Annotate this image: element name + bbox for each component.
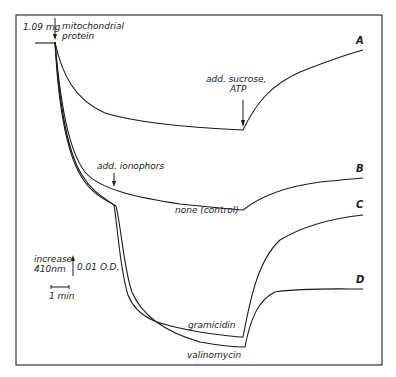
time-scale-label: 1 min bbox=[49, 291, 75, 301]
curve-label-d: D bbox=[356, 274, 364, 285]
curve-d bbox=[55, 42, 363, 347]
valinomycin-label: valinomycin bbox=[187, 350, 242, 360]
scale-wavelength-label: 410nm bbox=[34, 264, 66, 274]
curve-a bbox=[55, 42, 363, 130]
chart-figure: 1.09 mg mitochondrial protein A add. suc… bbox=[0, 0, 396, 377]
curve-c bbox=[55, 42, 363, 337]
start-label-line1: mitochondrial bbox=[62, 21, 125, 31]
sucrose-label-line1: add. sucrose, bbox=[206, 74, 266, 84]
ionophors-arrow-head-icon bbox=[112, 181, 116, 187]
gramicidin-label: gramicidin bbox=[188, 320, 236, 330]
curve-label-a: A bbox=[355, 35, 364, 46]
od-scale-label: 0.01 O.D. bbox=[77, 262, 119, 272]
curve-label-c: C bbox=[356, 199, 364, 210]
curve-label-b: B bbox=[356, 163, 364, 174]
curve-b bbox=[55, 42, 363, 210]
ionophors-label: add. ionophors bbox=[97, 161, 165, 171]
control-label: none (control) bbox=[175, 205, 239, 215]
start-amount-label: 1.09 mg bbox=[23, 22, 61, 32]
start-label-line2: protein bbox=[61, 31, 94, 41]
scale-increase-label: increase bbox=[34, 254, 73, 264]
protein-arrow-head-icon bbox=[53, 34, 57, 40]
chart-frame bbox=[16, 15, 382, 365]
sucrose-label-line2: ATP bbox=[229, 84, 247, 94]
